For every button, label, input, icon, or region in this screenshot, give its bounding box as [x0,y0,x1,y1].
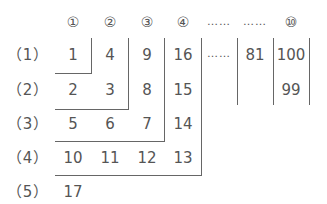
cell: 16 [173,46,192,64]
bracket-line [55,73,92,74]
row-label-1: （1） [7,46,50,64]
cell: 4 [105,46,115,64]
bracket-line [164,38,165,141]
cell: 100 [277,46,306,64]
column-header-4: ④ [177,13,190,31]
row-label-2: （2） [7,81,50,99]
cell: 5 [68,115,78,133]
cell: 8 [142,81,152,99]
cell: 15 [173,81,192,99]
column-header-3: ③ [141,13,154,31]
cell: 13 [173,149,192,167]
cell: 99 [281,81,300,99]
column-header-10: ⑩ [285,13,298,31]
row-label-4: （4） [7,149,50,167]
divider-line [237,38,238,105]
cell: 3 [105,81,115,99]
divider-line [273,38,274,105]
column-header-ellipsis-2: …… [243,13,267,31]
cell: 10 [63,149,82,167]
cell: 2 [68,81,78,99]
cell: 11 [100,149,119,167]
cell: 12 [137,149,156,167]
cell: 81 [245,46,264,64]
cell: 7 [142,115,152,133]
column-header-1: ① [67,13,80,31]
column-header-2: ② [104,13,117,31]
cell: 6 [105,115,115,133]
bracket-line [55,141,165,142]
bracket-line [91,38,92,73]
row-label-3: （3） [7,115,50,133]
cell: 9 [142,46,152,64]
bracket-line [55,109,129,110]
cell: 14 [173,115,192,133]
bracket-line [128,38,129,109]
row-label-5: （5） [7,183,50,201]
divider-line [309,38,310,105]
bracket-line [55,175,202,176]
cell-ellipsis: …… [207,45,231,63]
column-header-ellipsis-1: …… [207,13,231,31]
cell: 17 [63,183,82,201]
cell: 1 [68,46,78,64]
bracket-line [201,38,202,175]
